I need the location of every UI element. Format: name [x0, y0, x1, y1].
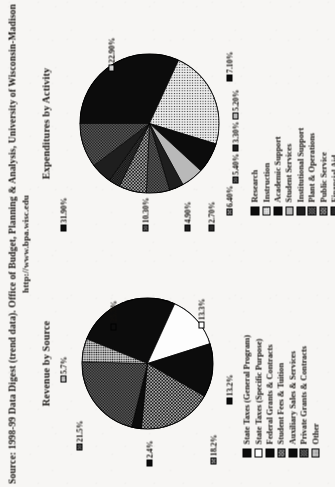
legend-item-revenue-6: Other [309, 245, 320, 457]
pie-label-revenue-4: 2.4% [145, 440, 154, 466]
legend-item-revenue-4: Auxiliary Sales & Services [287, 245, 298, 457]
pie-label-expenditures-4: 3.30% [231, 121, 240, 151]
legend-label: Public Service [319, 152, 328, 202]
legend-swatch-icon [319, 206, 328, 215]
pie-label-expenditures-5: 5.40% [231, 153, 240, 183]
label-swatch-icon [226, 397, 233, 404]
legend-label: Institutional Support [296, 127, 305, 202]
label-swatch-icon [146, 459, 153, 466]
legend-revenue: State Taxes (General Program)State Taxes… [241, 245, 321, 481]
pie-label-revenue-2: 13.2% [225, 374, 234, 404]
pie-label-expenditures-1: 22.90% [107, 37, 116, 71]
legend-item-expenditures-7: Financial Aid [329, 1, 335, 215]
legend-label: State Taxes (Specific Purpose) [254, 338, 263, 444]
legend-item-revenue-5: Private Grants & Contracts [298, 245, 309, 457]
legend-label: Student Services [284, 143, 293, 202]
legend-label: Plant & Operations [307, 133, 316, 202]
legend-swatch-icon [265, 448, 274, 457]
pie-chart-expenditures [79, 53, 219, 193]
pie-chart-revenue [81, 297, 213, 429]
pie-label-revenue-1: 13.3% [197, 298, 206, 328]
legend-swatch-icon [254, 448, 263, 457]
legend-item-revenue-0: State Taxes (General Program) [241, 245, 252, 457]
legend-swatch-icon [330, 206, 335, 215]
legend-label: Other [311, 423, 320, 444]
legend-item-revenue-3: Student Fees & Tuition [275, 245, 286, 457]
pie-label-expenditures-2: 7.10% [225, 51, 234, 81]
legend-label: Research [250, 169, 259, 201]
label-swatch-icon [198, 321, 205, 328]
legend-swatch-icon [277, 448, 286, 457]
pie-label-revenue-0: 25.7% [109, 300, 118, 330]
legend-label: Academic Support [273, 136, 282, 202]
label-swatch-icon [232, 176, 239, 183]
label-swatch-icon [232, 144, 239, 151]
legend-label: Federal Grants & Contracts [265, 344, 274, 444]
legend-swatch-icon [296, 206, 305, 215]
legend-swatch-icon [288, 448, 297, 457]
legend-item-expenditures-3: Student Services [283, 1, 294, 215]
legend-swatch-icon [242, 448, 251, 457]
legend-item-revenue-2: Federal Grants & Contracts [264, 245, 275, 457]
legend-label: Student Fees & Tuition [276, 362, 285, 444]
legend-label: Private Grants & Contracts [299, 345, 308, 443]
legend-swatch-icon [285, 206, 294, 215]
source-note: Source: 1998-99 Data Digest (trend data)… [6, 0, 31, 487]
label-swatch-icon [110, 323, 117, 330]
legend-label: Auxiliary Sales & Services [288, 351, 297, 444]
pie-label-expenditures-6: 6.40% [225, 185, 234, 215]
pie-label-revenue-6: 5.7% [59, 356, 68, 382]
scanned-page: Source: 1998-99 Data Digest (trend data)… [0, 0, 335, 487]
chart-block-revenue: Revenue by Source 25.7% 13.3% 13.2% 18.2… [40, 245, 332, 481]
legend-item-expenditures-6: Public Service [317, 1, 328, 215]
label-swatch-icon [142, 224, 149, 231]
legend-item-revenue-1: State Taxes (Specific Purpose) [252, 245, 263, 457]
pie-label-expenditures-9: 10.30% [141, 197, 150, 231]
label-swatch-icon [76, 443, 83, 450]
pie-area-revenue: 25.7% 13.3% 13.2% 18.2% 2.4% 21.5% 5.7% [57, 260, 233, 466]
legend-item-expenditures-1: Instruction [260, 1, 271, 215]
legend-item-expenditures-4: Institutional Support [295, 1, 306, 215]
legend-swatch-icon [262, 206, 271, 215]
legend-swatch-icon [307, 206, 316, 215]
label-swatch-icon [184, 224, 191, 231]
chart-title-expenditures: Expenditures by Activity [40, 1, 51, 245]
label-swatch-icon [60, 224, 67, 231]
legend-label: Instruction [262, 162, 271, 201]
source-url: http://www.bpa.wisc.edu [19, 0, 32, 487]
source-line-1: Source: 1998-99 Data Digest (trend data)… [6, 4, 17, 484]
legend-expenditures: ResearchInstructionAcademic SupportStude… [249, 1, 335, 245]
label-swatch-icon [226, 74, 233, 81]
legend-label: Financial Aid [330, 154, 335, 202]
legend-swatch-icon [273, 206, 282, 215]
label-swatch-icon [60, 375, 67, 382]
legend-item-expenditures-0: Research [249, 1, 260, 215]
legend-swatch-icon [311, 448, 320, 457]
legend-label: State Taxes (General Program) [242, 335, 251, 444]
legend-swatch-icon [250, 206, 259, 215]
chart-block-expenditures: Expenditures by Activity 31.90% 22.90% 7… [40, 1, 332, 245]
pie-label-revenue-3: 18.2% [209, 434, 218, 464]
pie-label-expenditures-8: 4.90% [183, 201, 192, 231]
legend-item-expenditures-2: Academic Support [272, 1, 283, 215]
chart-title-revenue: Revenue by Source [40, 245, 51, 481]
pie-label-expenditures-7: 2.70% [207, 201, 216, 231]
label-swatch-icon [108, 64, 115, 71]
label-swatch-icon [226, 208, 233, 215]
legend-swatch-icon [299, 448, 308, 457]
pie-label-expenditures-0: 31.90% [59, 197, 68, 231]
label-swatch-icon [208, 224, 215, 231]
pie-label-expenditures-3: 5.20% [231, 89, 240, 119]
pie-area-expenditures: 31.90% 22.90% 7.10% 5.20% 3.30% 5.40% 6.… [55, 15, 241, 231]
pie-label-revenue-5: 21.5% [75, 420, 84, 450]
label-swatch-icon [232, 112, 239, 119]
label-swatch-icon [210, 457, 217, 464]
legend-item-expenditures-5: Plant & Operations [306, 1, 317, 215]
